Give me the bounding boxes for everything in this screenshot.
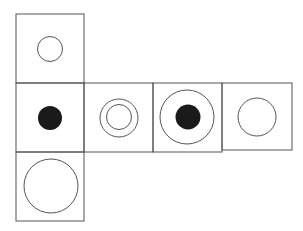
center-dot-icon bbox=[176, 105, 201, 130]
face-bottom bbox=[16, 152, 84, 221]
face-top bbox=[16, 14, 84, 83]
face-front bbox=[84, 83, 153, 152]
small-circle-icon bbox=[38, 37, 63, 62]
inner-ring-icon bbox=[107, 105, 132, 130]
cube-net-diagram bbox=[0, 0, 303, 231]
large-circle-icon bbox=[24, 159, 78, 213]
face-back bbox=[222, 83, 292, 150]
medium-circle-icon bbox=[238, 98, 276, 136]
filled-dot-icon bbox=[38, 106, 62, 130]
